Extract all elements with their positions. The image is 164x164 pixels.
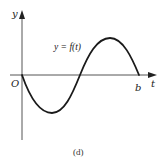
y-axis-label: y xyxy=(11,8,18,19)
origin-label: O xyxy=(11,78,19,89)
function-label: y = f(t) xyxy=(53,42,81,53)
sine-diagram: y O b t y = f(t) (d) xyxy=(0,0,164,164)
figure-caption: (d) xyxy=(73,147,84,157)
b-label: b xyxy=(135,82,141,93)
x-axis-label: t xyxy=(151,78,156,89)
y-axis-arrow-icon xyxy=(19,10,25,19)
